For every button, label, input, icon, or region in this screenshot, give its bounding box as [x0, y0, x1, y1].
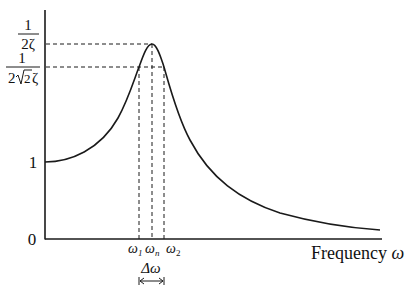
svg-text:ω: ω: [145, 241, 155, 256]
svg-text:1: 1: [138, 248, 143, 258]
bandwidth-arrow: [139, 277, 164, 285]
half-power-denominator-prefix: 2: [8, 70, 16, 86]
peak-numerator: 1: [24, 17, 32, 33]
y-tick-peak: 1 2ζ: [18, 17, 39, 52]
svg-text:n: n: [155, 248, 160, 258]
svg-text:ω: ω: [128, 241, 138, 256]
x-tick-omega1: ω 1: [128, 241, 143, 258]
x-tick-omegan: ω n: [145, 241, 160, 258]
svg-text:ω: ω: [166, 241, 176, 256]
x-axis-label: Frequency ω: [311, 243, 404, 263]
resonance-diagram: 1 2ζ 1 2 2 ζ 1 0 ω 1 ω n ω 2 Frequency ω…: [0, 0, 408, 292]
response-curve: [45, 44, 380, 230]
bandwidth-label: Δω: [140, 260, 160, 276]
half-power-denominator-suffix: ζ: [32, 70, 38, 86]
y-tick-zero: 0: [28, 230, 37, 249]
y-tick-one: 1: [29, 153, 38, 172]
half-power-denominator-sqrt: 2: [24, 71, 31, 86]
y-tick-half-power: 1 2 2 ζ: [6, 50, 40, 86]
x-tick-omega2: ω 2: [166, 241, 181, 258]
svg-text:2: 2: [176, 248, 181, 258]
half-power-numerator: 1: [18, 50, 26, 66]
